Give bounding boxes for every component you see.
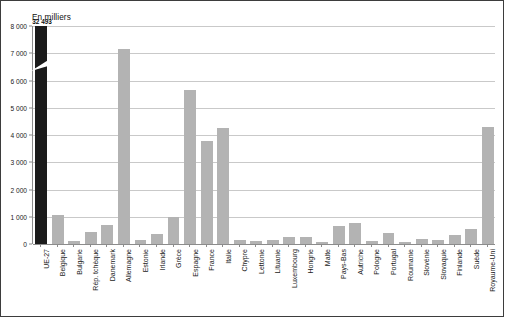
bar-slot[interactable] xyxy=(331,26,348,244)
bar-slot[interactable] xyxy=(99,26,116,244)
bar-slot[interactable] xyxy=(116,26,133,244)
x-tick-mark xyxy=(239,244,240,247)
bar-slot[interactable] xyxy=(281,26,298,244)
y-tick-label: 2 000 xyxy=(10,186,27,193)
x-axis-slot: Portugal xyxy=(379,244,396,316)
bar[interactable] xyxy=(383,233,395,244)
x-axis-slot: Lettonie xyxy=(247,244,264,316)
y-axis: 8 0007 0006 0005 0004 0003 0002 0001 000… xyxy=(1,26,32,244)
bar-slot[interactable] xyxy=(215,26,232,244)
x-tick-mark xyxy=(189,244,190,247)
bar[interactable] xyxy=(85,232,97,244)
bar-slot[interactable] xyxy=(364,26,381,244)
bar-slot[interactable] xyxy=(347,26,364,244)
x-axis-slot: UE-27 xyxy=(32,244,49,316)
x-axis-slot: Irlande xyxy=(148,244,165,316)
x-tick-mark xyxy=(354,244,355,247)
x-tick-mark xyxy=(206,244,207,247)
x-tick-mark xyxy=(305,244,306,247)
y-tick-label: 4 000 xyxy=(10,132,27,139)
x-axis-slot: Suède xyxy=(462,244,479,316)
y-tick-label: 0 xyxy=(23,241,27,248)
x-tick-mark xyxy=(139,244,140,247)
x-tick-label: Royaume-Uni xyxy=(489,249,496,292)
bar-slot[interactable] xyxy=(446,26,463,244)
x-tick-mark xyxy=(454,244,455,247)
x-axis-slot: Allemagne xyxy=(115,244,132,316)
x-axis-slot: Bulgarie xyxy=(65,244,82,316)
bar-slot[interactable] xyxy=(198,26,215,244)
bar-slot[interactable] xyxy=(397,26,414,244)
bar[interactable] xyxy=(201,141,213,244)
bar[interactable] xyxy=(333,226,345,244)
x-axis-slot: Pologne xyxy=(363,244,380,316)
bar[interactable] xyxy=(300,237,312,244)
bar[interactable] xyxy=(52,215,64,244)
x-axis-slot: Roumanie xyxy=(396,244,413,316)
x-tick-mark xyxy=(321,244,322,247)
bar-slot[interactable] xyxy=(149,26,166,244)
bar-slot[interactable] xyxy=(66,26,83,244)
bar-slot[interactable] xyxy=(231,26,248,244)
x-tick-mark xyxy=(421,244,422,247)
bar-slot[interactable] xyxy=(165,26,182,244)
x-tick-mark xyxy=(156,244,157,247)
x-axis-slot: Belgique xyxy=(49,244,66,316)
x-axis-slot: France xyxy=(197,244,214,316)
x-tick-mark xyxy=(288,244,289,247)
bar[interactable] xyxy=(283,237,295,244)
x-axis-slot: Grèce xyxy=(164,244,181,316)
bar-slot[interactable] xyxy=(83,26,100,244)
y-tick-label: 1 000 xyxy=(10,213,27,220)
bar-slot[interactable] xyxy=(182,26,199,244)
y-tick-label: 6 000 xyxy=(10,77,27,84)
bar-slot[interactable] xyxy=(463,26,480,244)
x-tick-mark xyxy=(222,244,223,247)
y-tick-label: 7 000 xyxy=(10,50,27,57)
bar[interactable] xyxy=(118,49,130,244)
x-tick-mark xyxy=(470,244,471,247)
x-axis-slot: Royaume-Uni xyxy=(478,244,495,316)
bar-slot[interactable] xyxy=(380,26,397,244)
y-tick-label: 5 000 xyxy=(10,104,27,111)
bar[interactable] xyxy=(217,128,229,244)
bar-slot[interactable] xyxy=(248,26,265,244)
bar[interactable] xyxy=(482,127,494,244)
bar-slot[interactable] xyxy=(413,26,430,244)
x-tick-mark xyxy=(40,244,41,247)
bar-value-label: 32 493 xyxy=(32,18,52,25)
bar-slot[interactable] xyxy=(298,26,315,244)
bar[interactable] xyxy=(151,234,163,244)
bar[interactable] xyxy=(449,235,461,244)
bar[interactable] xyxy=(349,223,361,244)
x-axis-slot: Luxembourg xyxy=(280,244,297,316)
x-axis-slot: Danemark xyxy=(98,244,115,316)
bar[interactable] xyxy=(168,217,180,244)
bar-slot[interactable] xyxy=(265,26,282,244)
x-tick-mark xyxy=(106,244,107,247)
bar[interactable] xyxy=(101,225,113,244)
x-tick-mark xyxy=(487,244,488,247)
x-axis-slot: Italie xyxy=(214,244,231,316)
x-tick-mark xyxy=(173,244,174,247)
x-tick-mark xyxy=(437,244,438,247)
bar-slot[interactable] xyxy=(430,26,447,244)
x-tick-mark xyxy=(73,244,74,247)
x-tick-mark xyxy=(57,244,58,247)
bar-slot[interactable]: 32 493 xyxy=(33,26,50,244)
x-tick-mark xyxy=(123,244,124,247)
bar-slot[interactable] xyxy=(479,26,496,244)
bar[interactable] xyxy=(184,90,196,244)
x-tick-mark xyxy=(371,244,372,247)
bar-slot[interactable] xyxy=(50,26,67,244)
bar-slot[interactable] xyxy=(314,26,331,244)
x-tick-mark xyxy=(255,244,256,247)
x-axis-slot: Pays-Bas xyxy=(330,244,347,316)
x-axis-slot: Rép. tchèque xyxy=(82,244,99,316)
x-axis: UE-27BelgiqueBulgarieRép. tchèqueDanemar… xyxy=(32,244,495,316)
x-axis-slot: Estonie xyxy=(131,244,148,316)
bar[interactable] xyxy=(465,229,477,244)
bar-slot[interactable] xyxy=(132,26,149,244)
x-axis-slot: Autriche xyxy=(346,244,363,316)
x-axis-slot: Slovénie xyxy=(412,244,429,316)
